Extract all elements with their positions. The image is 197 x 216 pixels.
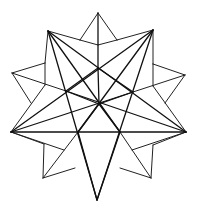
spike-edge-lrs-lr1 xyxy=(151,145,153,178)
spike-edge-lrs-pbr xyxy=(120,132,151,178)
spike-edge-rs-ri3 xyxy=(165,75,185,103)
spike-edge-top-tr xyxy=(98,13,117,40)
star-edge-c-pl xyxy=(66,91,99,104)
spike-edge-li2-l xyxy=(11,85,45,132)
star-edge-c-pr xyxy=(99,92,133,104)
spike-edge-lls-pbl xyxy=(43,132,78,178)
polyhedron-figure xyxy=(0,0,197,216)
spike-edge-lrs-lr3 xyxy=(120,168,151,178)
spike-edge-ll2-l xyxy=(11,132,64,150)
spike-edge-lls-ll3 xyxy=(43,168,75,178)
spike-edge-ri2-r xyxy=(153,86,186,132)
spike-edge-rs-ri1 xyxy=(153,64,185,75)
spike-edge-top-tl xyxy=(80,13,98,40)
spike-edge-rs-pr xyxy=(133,75,185,92)
spike-edge-tr-tm xyxy=(98,40,117,45)
star-edge-ur-l xyxy=(11,30,153,132)
spike-edge-ls-pl xyxy=(12,73,66,91)
stellated-dodecahedron-drawing xyxy=(0,0,197,216)
star-edge-c-pt xyxy=(98,68,99,104)
spike-edge-lls-ll1 xyxy=(43,144,44,178)
star-edge-pl-pt xyxy=(66,68,98,91)
spike-edge-lr2-r xyxy=(132,132,186,150)
star-edge-r-pl xyxy=(66,91,186,132)
spike-edge-li1-ul xyxy=(45,31,48,63)
spike-edge-ls-li1 xyxy=(12,63,45,73)
spike-edge-tl-tm xyxy=(80,40,98,45)
star-edge-c-pbl xyxy=(78,104,99,132)
spike-edge-ls-li3 xyxy=(12,73,31,103)
star-edge-pr-pt xyxy=(98,68,133,92)
star-edge-pbr-b xyxy=(97,132,120,200)
star-edge-pbl-b xyxy=(78,132,97,200)
spike-edge-ur-tr xyxy=(117,30,153,40)
